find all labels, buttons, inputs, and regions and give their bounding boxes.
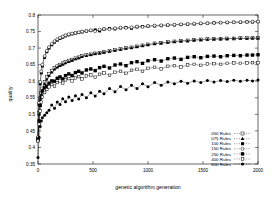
data-point [77, 31, 80, 34]
data-point [98, 73, 101, 76]
data-point [147, 24, 150, 27]
data-point [64, 74, 67, 77]
data-point [241, 147, 244, 150]
data-point [206, 63, 209, 66]
data-point [94, 30, 97, 33]
data-point [246, 20, 249, 23]
y-tick-label: 0.65 [26, 62, 35, 67]
data-point [153, 58, 156, 61]
data-point [85, 29, 88, 32]
data-point [50, 83, 53, 86]
data-point [141, 62, 144, 65]
data-point [233, 62, 236, 65]
y-tick-label: 0.45 [26, 129, 35, 134]
data-point [41, 116, 44, 119]
data-point [232, 54, 235, 57]
data-point [98, 66, 101, 69]
data-point [219, 55, 222, 58]
data-point [81, 30, 84, 33]
data-point [186, 64, 189, 67]
data-point [94, 76, 97, 79]
data-point [71, 32, 74, 35]
data-point [43, 114, 46, 117]
data-point [251, 61, 254, 64]
data-point [59, 80, 62, 83]
data-point [180, 80, 183, 83]
data-point [199, 81, 202, 84]
data-point [166, 23, 169, 26]
data-point [108, 87, 111, 90]
data-point [141, 25, 144, 28]
data-point [193, 79, 196, 82]
data-point [147, 85, 150, 88]
data-point [245, 53, 248, 56]
data-point [166, 57, 169, 60]
data-point [141, 70, 144, 73]
data-point [251, 20, 254, 23]
data-point [56, 81, 59, 84]
data-point [37, 156, 40, 159]
y-tick-label: 0.55 [26, 95, 35, 100]
data-point [43, 91, 46, 94]
data-point [130, 69, 133, 72]
data-point [61, 97, 64, 100]
data-point [186, 56, 189, 59]
data-point [85, 75, 88, 78]
data-point [193, 55, 196, 58]
data-point [186, 22, 189, 25]
data-point [94, 95, 97, 98]
data-point [68, 77, 71, 80]
data-point [146, 59, 149, 62]
data-point [241, 132, 244, 135]
data-point [219, 21, 222, 24]
data-point [130, 26, 133, 29]
data-point [147, 67, 150, 70]
data-point [160, 24, 163, 27]
data-point [71, 80, 74, 83]
data-point [241, 163, 244, 166]
data-point [212, 54, 215, 57]
data-point [179, 58, 182, 61]
data-point [85, 96, 88, 99]
data-point [89, 91, 92, 94]
data-point [193, 63, 196, 66]
data-point [41, 63, 44, 66]
data-point [251, 53, 254, 56]
data-point [141, 82, 144, 85]
data-point [39, 104, 42, 107]
data-point [130, 84, 133, 87]
data-point [39, 125, 42, 128]
data-point [167, 65, 170, 68]
data-point [206, 79, 209, 82]
data-point [67, 96, 70, 99]
data-point [103, 27, 106, 30]
data-point [103, 72, 106, 75]
data-point [219, 79, 222, 82]
data-point [40, 101, 43, 104]
y-tick-label: 0.6 [29, 79, 36, 84]
data-point [70, 74, 73, 77]
data-point [160, 68, 163, 71]
data-point [77, 75, 80, 78]
data-point [160, 84, 163, 87]
data-point [80, 71, 83, 74]
data-point [71, 99, 74, 102]
data-point [241, 158, 244, 161]
data-point [136, 87, 139, 90]
data-point [45, 111, 48, 114]
y-tick-label: 0.8 [29, 13, 36, 18]
data-point [206, 22, 209, 25]
chart-figure: 0.350.40.450.50.550.60.650.70.750.8 0500… [0, 0, 272, 197]
data-point [226, 21, 229, 24]
y-tick-label: 0.75 [26, 29, 35, 34]
y-tick-label: 0.5 [29, 112, 36, 117]
data-point [257, 61, 260, 64]
data-point [166, 80, 169, 83]
data-point [77, 70, 80, 73]
x-tick-label: 1500 [198, 168, 209, 173]
data-point [53, 40, 56, 43]
data-point [153, 24, 156, 27]
data-point [241, 142, 244, 145]
data-point [257, 78, 260, 81]
data-point [206, 55, 209, 58]
